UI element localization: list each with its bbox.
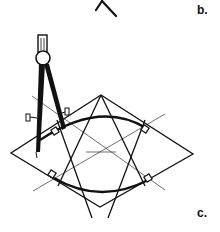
compass-hinge — [36, 51, 50, 65]
figure-label-c: c. — [197, 207, 207, 219]
figure-label-b: b. — [197, 4, 208, 16]
construction-diagram — [0, 0, 220, 232]
star-lines — [57, 95, 145, 218]
compass-right-leg — [44, 64, 66, 130]
figure-b-tip — [96, 1, 116, 16]
lower-arc — [54, 178, 148, 192]
compass-handle — [38, 35, 47, 52]
